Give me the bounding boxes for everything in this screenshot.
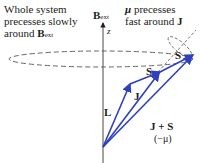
left-annotation-line2: precesses slowly <box>4 15 78 27</box>
z-label: z <box>107 25 111 37</box>
b-ext-label: Bext <box>93 9 109 23</box>
left-annotation-line1: Whole system <box>4 3 78 15</box>
label-J-plus-S: J + S <box>150 120 173 132</box>
precession-diagram: Whole system precesses slowly around Bex… <box>0 0 201 163</box>
label-minus-mu: (−μ) <box>154 133 172 145</box>
label-L: L <box>104 106 111 118</box>
label-J: J <box>134 90 140 102</box>
label-S-mid: S <box>146 65 152 77</box>
right-annotation-line2: fast around J <box>125 15 182 27</box>
left-annotation: Whole system precesses slowly around Bex… <box>4 3 78 41</box>
right-annotation-line1: μ precesses <box>125 3 182 15</box>
slow-precession-ellipse <box>9 51 193 67</box>
right-annotation: μ precesses fast around J <box>125 3 182 27</box>
label-S-tip: S <box>175 49 181 61</box>
left-annotation-line3: around Bext <box>4 27 78 41</box>
